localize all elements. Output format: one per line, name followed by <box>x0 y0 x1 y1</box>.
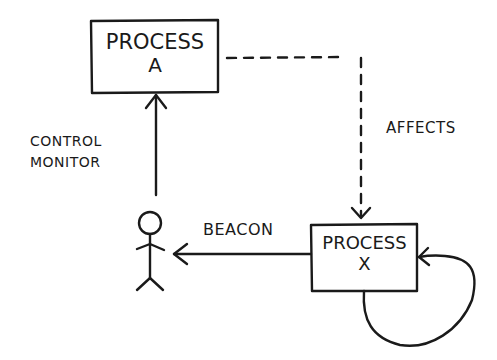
affects-arrow <box>227 57 361 215</box>
process-a-line1: PROCESS <box>92 30 218 54</box>
control-label: CONTROL <box>30 131 102 152</box>
control-monitor-label: CONTROL MONITOR <box>30 131 102 173</box>
diagram-canvas <box>0 0 497 360</box>
process-x-line1: PROCESS <box>312 233 417 254</box>
process-x-line2: X <box>312 254 417 275</box>
actor-stick-figure-icon <box>137 212 164 290</box>
process-x-label: PROCESS X <box>312 233 417 274</box>
process-a-line2: A <box>92 54 218 77</box>
monitor-label: MONITOR <box>30 152 102 173</box>
process-a-label: PROCESS A <box>92 30 218 77</box>
affects-label: AFFECTS <box>386 119 456 137</box>
beacon-label: BEACON <box>203 220 273 239</box>
